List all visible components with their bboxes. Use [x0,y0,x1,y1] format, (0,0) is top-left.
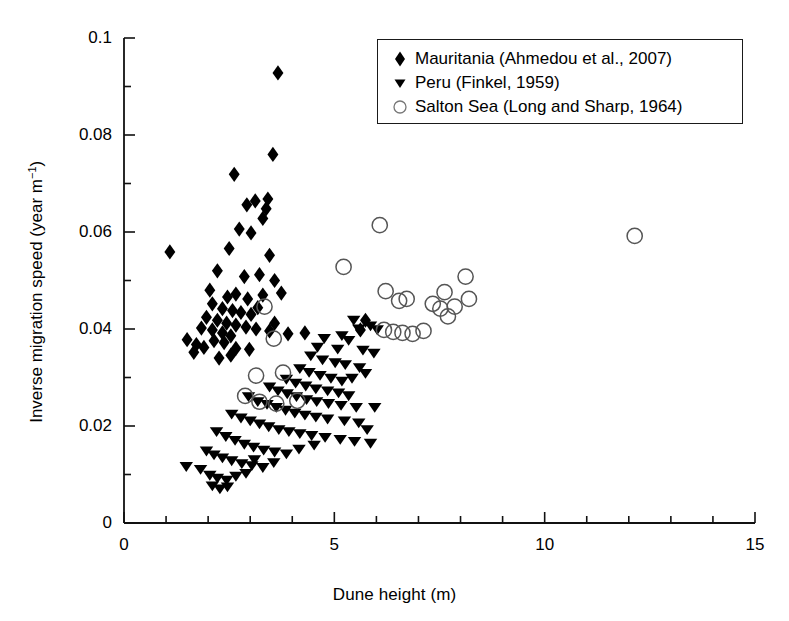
data-point-triangle [311,343,324,353]
data-point-triangle [360,425,373,435]
legend-box: Mauritania (Ahmedou et al., 2007) Peru (… [377,39,743,124]
data-point-diamond [212,263,223,278]
data-point-circle [372,218,387,233]
data-point-circle [458,269,473,284]
data-point-diamond [299,325,310,340]
data-point-diamond [204,283,215,298]
data-point-triangle [334,401,347,411]
y-axis-title-close: ) [27,161,46,167]
data-point-triangle [292,445,305,455]
legend-label-peru: Peru (Finkel, 1959) [415,71,560,95]
data-point-triangle [349,403,362,413]
data-point-triangle [368,403,381,413]
y-tick-label: 0.08 [30,125,112,145]
data-point-diamond [229,167,240,182]
data-point-triangle [298,411,311,421]
data-point-triangle [339,360,352,370]
data-point-triangle [225,456,238,466]
data-point-diamond [242,291,253,306]
x-tick-label: 10 [535,535,554,555]
data-point-triangle [342,336,355,346]
figure-container: Inverse migration speed (year m−1) Dune … [0,0,789,621]
data-point-diamond [164,244,175,259]
y-tick-label: 0.06 [30,222,112,242]
data-point-triangle [256,463,269,473]
data-point-diamond [230,286,241,301]
data-point-triangle [313,371,326,381]
data-point-triangle [367,349,380,359]
data-point-triangle [289,379,302,389]
data-point-triangle [335,377,348,387]
data-point-triangle [347,316,360,326]
data-point-triangle [247,443,260,453]
data-point-triangle [348,437,361,447]
data-point-diamond [207,296,218,311]
data-point-diamond [235,305,246,320]
data-point-diamond [269,273,280,288]
data-point-triangle [331,345,344,355]
data-point-diamond [244,342,255,357]
data-point-triangle [302,368,315,378]
data-point-triangle [262,422,275,432]
data-point-diamond [251,321,262,336]
data-point-triangle [342,391,355,401]
data-point-diamond [227,303,238,318]
y-axis-title-exponent: −1 [26,167,38,180]
data-point-diamond [234,221,245,236]
data-point-diamond [276,286,287,301]
legend-item-salton-sea: Salton Sea (Long and Sharp, 1964) [378,95,742,119]
y-tick-label: 0 [30,513,112,533]
data-point-diamond [254,267,265,282]
data-point-diamond [198,340,209,355]
data-point-diamond [222,289,233,304]
data-point-triangle [288,409,301,419]
legend-label-mauritania: Mauritania (Ahmedou et al., 2007) [415,47,672,71]
data-point-circle [248,368,263,383]
data-point-triangle [268,448,281,458]
data-point-triangle [324,374,337,384]
data-point-triangle [332,388,345,398]
triangle-down-marker-icon [389,71,415,95]
data-point-triangle [235,459,248,469]
data-point-diamond [241,197,252,212]
data-point-triangle [307,441,320,451]
data-point-circle [461,291,476,306]
data-point-diamond [217,301,228,316]
data-point-triangle [180,462,193,472]
data-point-triangle [321,386,334,396]
data-point-triangle [272,425,285,435]
circle-open-marker-icon [389,95,415,119]
data-point-diamond [257,287,268,302]
data-point-triangle [280,450,293,460]
series-1 [164,65,371,365]
data-point-diamond [241,319,252,334]
data-point-circle [405,326,420,341]
data-point-circle [416,323,431,338]
data-point-diamond [267,147,278,162]
data-point-triangle [299,382,312,392]
data-point-triangle [316,355,329,365]
data-point-diamond [182,332,193,347]
x-tick-label: 5 [330,535,339,555]
legend-item-mauritania: Mauritania (Ahmedou et al., 2007) [378,47,742,71]
data-point-triangle [309,385,322,395]
data-point-triangle [364,439,377,449]
data-point-triangle [257,446,270,456]
data-point-circle [336,259,351,274]
data-point-diamond [246,225,257,240]
data-point-triangle [359,369,372,379]
data-point-circle [437,285,452,300]
data-point-triangle [282,427,295,437]
legend-item-peru: Peru (Finkel, 1959) [378,71,742,95]
y-axis-title-main: Inverse migration speed (year m [27,179,46,423]
data-point-diamond [283,326,294,341]
data-point-triangle [310,397,323,407]
y-axis-title: Inverse migration speed (year m−1) [26,49,48,534]
data-point-triangle [322,399,335,409]
data-point-circle [266,331,281,346]
data-point-diamond [224,241,235,256]
data-point-triangle [304,352,317,362]
data-point-triangle [345,374,358,384]
x-tick-label: 0 [119,535,128,555]
data-point-triangle [300,395,313,405]
